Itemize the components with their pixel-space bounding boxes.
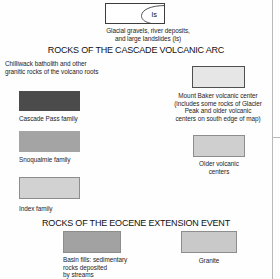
surficial-caption-line-1: Glacial gravels, river deposits, (92, 27, 204, 35)
basin-fills-label-line-1: Basin fills: sedimentary (63, 256, 173, 264)
map-frame-right-rule (272, 0, 273, 279)
older-volcanic-label-line-1: Older volcanic (167, 160, 271, 168)
swatch-index-family (19, 177, 80, 199)
swatch-granite (181, 231, 237, 253)
label-mount-baker-volcanic-center: Mount Baker volcanic center (includes so… (152, 92, 280, 122)
surficial-deposits-swatch: ls (105, 3, 165, 24)
mount-baker-label-line-1: Mount Baker volcanic center (152, 92, 280, 100)
swatch-basin-fills (63, 231, 121, 253)
label-basin-fills: Basin fills: sedimentary rocks deposited… (63, 256, 173, 279)
mount-baker-label-line-4: centers on south edge of map) (152, 115, 280, 123)
swatch-mount-baker-volcanic-center (192, 66, 245, 88)
landslide-unit-label: ls (152, 11, 157, 19)
swatch-snoqualmie-family (19, 131, 80, 152)
label-snoqualmie-family: Snoqualmie family (19, 156, 139, 164)
older-volcanic-label-line-2: centers (167, 168, 271, 176)
label-granite: Granite (178, 257, 240, 265)
section-heading-cascade-volcanic-arc: ROCKS OF THE CASCADE VOLCANIC ARC (0, 45, 272, 55)
basin-fills-label-line-2: rocks deposited (63, 264, 173, 272)
swatch-older-volcanic-centers (193, 135, 245, 157)
mount-baker-label-line-3: Peak and older volcanic (152, 107, 280, 115)
map-legend-panel: ls Glacial gravels, river deposits, and … (0, 0, 280, 279)
label-index-family: Index family (19, 205, 139, 213)
chilliwack-note-line-1: Chilliwack batholith and other (5, 60, 135, 68)
label-cascade-pass-family: Cascade Pass family (19, 115, 139, 123)
mount-baker-label-line-2: (includes some rocks of Glacier (152, 100, 280, 108)
swatch-cascade-pass-family (19, 91, 80, 111)
section-heading-eocene-extension-event: ROCKS OF THE EOCENE EXTENSION EVENT (0, 218, 272, 228)
chilliwack-note-line-2: granitic rocks of the volcano roots (5, 68, 135, 76)
surficial-deposits-caption: Glacial gravels, river deposits, and lar… (92, 27, 204, 42)
label-older-volcanic-centers: Older volcanic centers (167, 160, 271, 175)
surficial-caption-line-2: and large landslides (ls) (92, 35, 204, 43)
map-frame-tick (272, 137, 280, 138)
basin-fills-label-line-3: by streams (63, 271, 173, 279)
chilliwack-batholith-note: Chilliwack batholith and other granitic … (5, 60, 135, 75)
